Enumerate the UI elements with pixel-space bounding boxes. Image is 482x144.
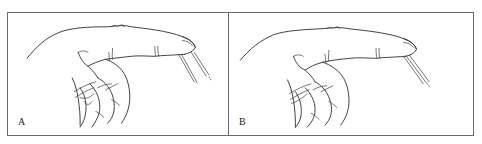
hand-illustration-a [8,13,228,135]
hand-illustration-b [229,13,473,135]
panel-label-a: A [18,117,25,127]
panel-label-b: B [239,117,246,127]
panel-a: A [8,13,229,135]
figure-frame: A [7,12,474,136]
panel-b: B [229,13,473,135]
